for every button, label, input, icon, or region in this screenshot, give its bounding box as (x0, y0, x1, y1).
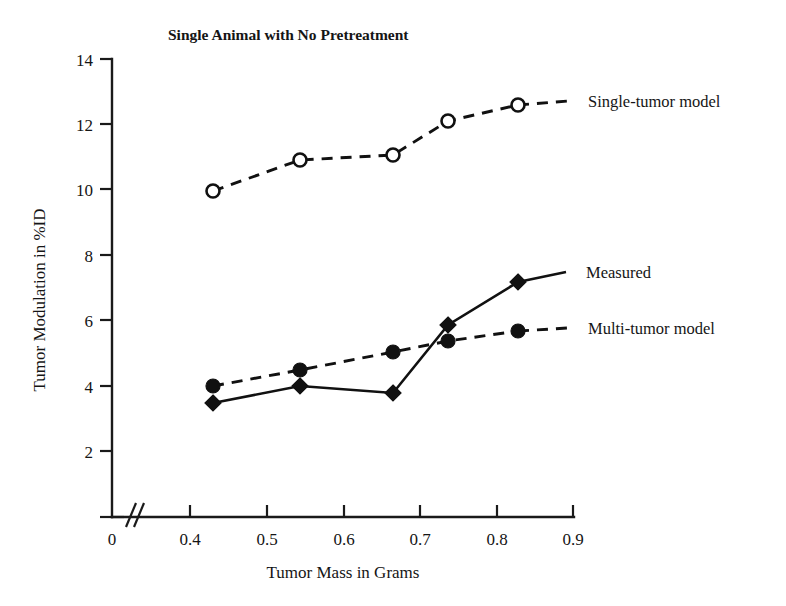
data-point (510, 274, 526, 290)
data-point (441, 334, 455, 348)
x-axis: 0 0.4 0.5 0.6 0.7 0.8 0.9 Tumor Mass in … (108, 503, 584, 582)
x-tick-label-0.7: 0.7 (409, 530, 431, 549)
y-tick-label-2: 2 (85, 443, 94, 462)
x-tick-label-0.9: 0.9 (562, 530, 583, 549)
chart-canvas: Single Animal with No Pretreatment 14 12… (0, 0, 786, 606)
y-tick-label-8: 8 (85, 247, 94, 266)
data-point (294, 154, 307, 167)
x-tick-label-0.8: 0.8 (486, 530, 507, 549)
y-tick-label-10: 10 (76, 181, 93, 200)
data-point (206, 379, 220, 393)
series-single-tumor-model-line (213, 105, 518, 191)
series-measured: Measured (205, 263, 652, 411)
series-measured-line (213, 282, 518, 403)
data-point (442, 115, 455, 128)
y-axis-title: Tumor Modulation in %ID (30, 208, 49, 391)
series-multi-tumor-model-line (213, 331, 518, 386)
data-point (511, 324, 525, 338)
chart-title: Single Animal with No Pretreatment (168, 26, 409, 43)
y-tick-label-4: 4 (85, 378, 94, 397)
series-multi-tumor-model: Multi-tumor model (206, 319, 715, 393)
x-tick-label-0.5: 0.5 (256, 530, 277, 549)
x-tick-label-0.4: 0.4 (179, 530, 201, 549)
x-axis-tick-labels: 0 0.4 0.5 0.6 0.7 0.8 0.9 (108, 530, 584, 549)
data-point (387, 149, 400, 162)
series-label-single-tumor-model: Single-tumor model (588, 92, 721, 111)
x-tick-label-0.6: 0.6 (333, 530, 354, 549)
data-point (207, 185, 220, 198)
x-tick-label-0: 0 (108, 530, 117, 549)
y-tick-label-12: 12 (76, 116, 93, 135)
x-axis-ticks (190, 505, 573, 517)
data-point (512, 99, 525, 112)
x-axis-title: Tumor Mass in Grams (267, 563, 420, 582)
data-point (205, 395, 221, 411)
y-tick-label-6: 6 (85, 312, 94, 331)
series-single-tumor-model: Single-tumor model (207, 92, 721, 198)
data-point (292, 378, 308, 394)
x-axis-break-icon (126, 503, 144, 527)
data-point (293, 363, 307, 377)
data-point (386, 345, 400, 359)
y-tick-label-14: 14 (76, 51, 94, 70)
y-axis: 14 12 10 8 6 4 2 Tumor Modulation in %ID (30, 51, 124, 517)
y-axis-tick-labels: 14 12 10 8 6 4 2 (76, 51, 94, 462)
series-label-measured: Measured (586, 263, 652, 282)
chart-page: Single Animal with No Pretreatment 14 12… (0, 0, 786, 606)
series-label-multi-tumor-model: Multi-tumor model (588, 319, 715, 338)
